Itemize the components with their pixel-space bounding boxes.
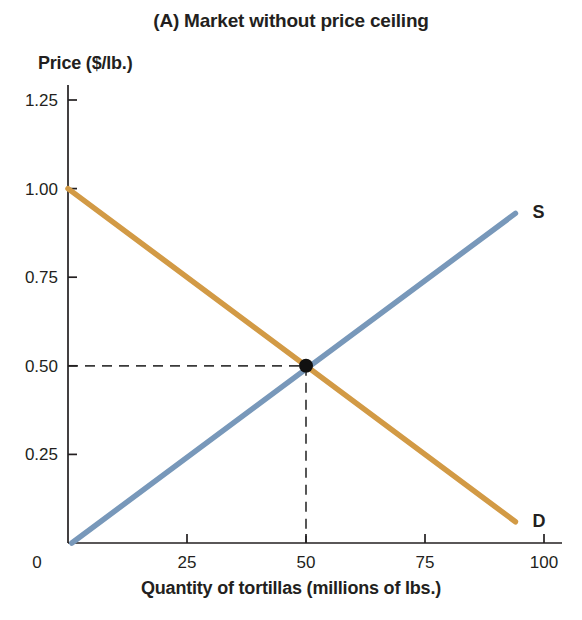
y-tick-label-0.25: 0.25 bbox=[25, 445, 58, 464]
x-tick-label-25: 25 bbox=[178, 553, 197, 572]
y-tick-label-1.25: 1.25 bbox=[25, 91, 58, 110]
x-tick-label-0: 0 bbox=[32, 553, 41, 572]
x-tick-label-100: 100 bbox=[530, 553, 558, 572]
chart-canvas: 0.250.500.751.001.250255075100SD bbox=[0, 0, 582, 620]
demand-curve bbox=[68, 189, 515, 522]
x-tick-label-50: 50 bbox=[297, 553, 316, 572]
supply-demand-figure: (A) Market without price ceiling Price (… bbox=[0, 0, 582, 620]
supply-curve-label: S bbox=[532, 202, 544, 222]
x-tick-label-75: 75 bbox=[416, 553, 435, 572]
y-tick-label-1.00: 1.00 bbox=[25, 180, 58, 199]
y-tick-label-0.50: 0.50 bbox=[25, 357, 58, 376]
demand-curve-label: D bbox=[532, 511, 545, 531]
y-tick-label-0.75: 0.75 bbox=[25, 268, 58, 287]
x-axis-title: Quantity of tortillas (millions of lbs.) bbox=[0, 578, 582, 599]
equilibrium-point bbox=[299, 359, 313, 373]
supply-curve bbox=[72, 213, 516, 543]
